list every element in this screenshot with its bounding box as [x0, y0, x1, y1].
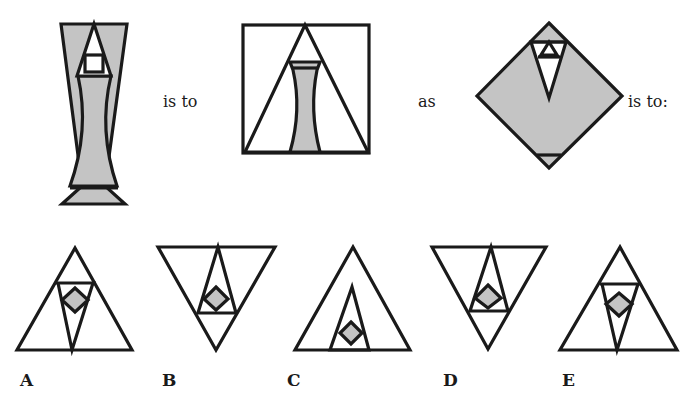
option-b-label[interactable]: B [162, 370, 176, 390]
connector-is-to: is to [163, 92, 197, 111]
option-c-label[interactable]: C [287, 370, 301, 390]
option-a-label[interactable]: A [20, 370, 33, 390]
connector-as: as [418, 92, 436, 111]
option-e-figure[interactable] [560, 247, 677, 350]
analogy-figure [0, 0, 695, 406]
stem-figure-3 [477, 23, 622, 168]
option-a-figure[interactable] [17, 248, 132, 350]
option-d-figure[interactable] [432, 247, 546, 349]
stem-figure-2 [243, 25, 369, 153]
option-e-label[interactable]: E [562, 370, 575, 390]
connector-is-to-final: is to: [628, 92, 668, 111]
option-c-figure[interactable] [295, 247, 410, 350]
option-d-label[interactable]: D [443, 370, 458, 390]
stem-figure-1 [61, 24, 127, 204]
option-b-figure[interactable] [158, 247, 275, 350]
